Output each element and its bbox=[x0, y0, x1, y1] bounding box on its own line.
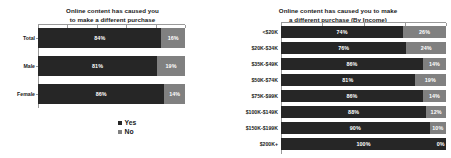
bar-segment-no: 12% bbox=[426, 106, 446, 118]
category-label: Female bbox=[0, 91, 38, 97]
category-label: $75K-$99K bbox=[225, 93, 281, 99]
bar-segment-yes: 81% bbox=[38, 56, 157, 76]
bar-value-yes: 86% bbox=[346, 93, 357, 99]
category-label: $100K-$149K bbox=[225, 109, 281, 115]
bar-row: Male 81% 19% bbox=[0, 56, 185, 76]
bar-segment-no: 16% bbox=[161, 28, 185, 48]
bar-row: Female 86% 14% bbox=[0, 84, 185, 104]
bar-segment-no: 24% bbox=[406, 42, 446, 54]
bar-row: $100K-$149K 88% 12% bbox=[225, 106, 446, 118]
bar-value-no: 16% bbox=[168, 35, 179, 41]
bar-track: 76% 24% bbox=[281, 42, 446, 54]
category-label: $35K-$49K bbox=[225, 61, 281, 67]
left-chart-panel: Online content has caused you to make a … bbox=[0, 0, 225, 158]
bar-segment-yes: 81% bbox=[281, 74, 415, 86]
bar-segment-no: 14% bbox=[423, 90, 446, 102]
bar-track: 81% 19% bbox=[281, 74, 446, 86]
category-label: Male bbox=[0, 63, 38, 69]
bar-row: $200K+ 100% 0% bbox=[225, 138, 446, 150]
bar-segment-no: 14% bbox=[423, 58, 446, 70]
bar-value-yes: 90% bbox=[350, 125, 361, 131]
legend: Yes No bbox=[118, 120, 136, 138]
category-label: Total bbox=[0, 35, 38, 41]
bar-track: 86% 14% bbox=[38, 84, 185, 104]
legend-label-yes: Yes bbox=[125, 120, 137, 127]
category-label: $20K-$34K bbox=[225, 45, 281, 51]
legend-item-yes[interactable]: Yes bbox=[118, 120, 136, 127]
axis-tick bbox=[446, 23, 447, 26]
bar-value-yes: 74% bbox=[337, 29, 348, 35]
legend-swatch-yes-icon bbox=[118, 121, 122, 125]
bar-value-yes: 76% bbox=[338, 45, 349, 51]
bar-row: Total 84% 16% bbox=[0, 28, 185, 48]
bar-track: 86% 14% bbox=[281, 58, 446, 70]
right-plot-area: <$20K 74% 26% $20K-$34K 76% bbox=[225, 22, 451, 156]
bar-value-yes: 88% bbox=[348, 109, 359, 115]
left-chart-title: Online content has caused you to make a … bbox=[0, 6, 225, 25]
category-label: $150K-$199K bbox=[225, 125, 281, 131]
bar-value-no: 24% bbox=[421, 45, 432, 51]
chart-page: Online content has caused you to make a … bbox=[0, 0, 451, 158]
bar-row: $50K-$74K 81% 19% bbox=[225, 74, 446, 86]
bar-track: 90% 10% bbox=[281, 122, 446, 134]
bar-value-yes: 100% bbox=[356, 141, 370, 147]
bar-row: $75K-$99K 86% 14% bbox=[225, 90, 446, 102]
right-chart-panel: Online content has caused you to make a … bbox=[225, 0, 451, 158]
bar-value-no: 14% bbox=[169, 91, 180, 97]
bar-value-no: 0% bbox=[437, 141, 445, 147]
bar-segment-yes: 86% bbox=[281, 90, 423, 102]
legend-label-no: No bbox=[125, 129, 134, 136]
bar-value-no: 26% bbox=[419, 29, 430, 35]
category-label: $50K-$74K bbox=[225, 77, 281, 83]
bar-row: $150K-$199K 90% 10% bbox=[225, 122, 446, 134]
bar-row: <$20K 74% 26% bbox=[225, 26, 446, 38]
category-label: <$20K bbox=[225, 29, 281, 35]
bar-track: 100% 0% bbox=[281, 138, 446, 150]
category-label: $200K+ bbox=[225, 141, 281, 147]
left-plot-area: Total 84% 16% Male 81% bbox=[0, 24, 225, 108]
bar-segment-yes: 74% bbox=[281, 26, 403, 38]
bar-value-no: 19% bbox=[165, 63, 176, 69]
bar-track: 88% 12% bbox=[281, 106, 446, 118]
bar-segment-yes: 88% bbox=[281, 106, 426, 118]
bar-value-no: 14% bbox=[429, 93, 440, 99]
bar-value-no: 10% bbox=[432, 125, 443, 131]
bar-track: 84% 16% bbox=[38, 28, 185, 48]
bar-value-yes: 84% bbox=[94, 35, 105, 41]
bar-value-no: 19% bbox=[425, 77, 436, 83]
bar-track: 74% 26% bbox=[281, 26, 446, 38]
bar-segment-no: 26% bbox=[403, 26, 446, 38]
right-chart-title-line1: Online content has caused you to make bbox=[251, 6, 425, 15]
bar-row: $35K-$49K 86% 14% bbox=[225, 58, 446, 70]
bar-segment-no: 14% bbox=[164, 84, 185, 104]
bar-value-no: 12% bbox=[431, 109, 442, 115]
bar-track: 86% 14% bbox=[281, 90, 446, 102]
bar-value-yes: 86% bbox=[96, 91, 107, 97]
legend-swatch-no-icon bbox=[118, 130, 122, 134]
bar-segment-yes: 86% bbox=[281, 58, 423, 70]
bar-value-yes: 81% bbox=[92, 63, 103, 69]
bar-segment-yes: 90% bbox=[281, 122, 430, 134]
bar-segment-yes: 84% bbox=[38, 28, 161, 48]
bar-value-no: 14% bbox=[429, 61, 440, 67]
bar-segment-yes: 100% bbox=[281, 138, 446, 150]
bar-segment-yes: 86% bbox=[38, 84, 164, 104]
bar-segment-no: 19% bbox=[415, 74, 446, 86]
axis-tick bbox=[185, 25, 186, 28]
bar-track: 81% 19% bbox=[38, 56, 185, 76]
bar-segment-yes: 76% bbox=[281, 42, 406, 54]
bar-value-yes: 81% bbox=[342, 77, 353, 83]
left-chart-title-line1: Online content has caused you bbox=[22, 6, 203, 15]
bar-segment-no: 19% bbox=[157, 56, 185, 76]
legend-item-no[interactable]: No bbox=[118, 129, 136, 136]
bar-row: $20K-$34K 76% 24% bbox=[225, 42, 446, 54]
bar-value-yes: 86% bbox=[346, 61, 357, 67]
bar-segment-no: 10% bbox=[430, 122, 447, 134]
